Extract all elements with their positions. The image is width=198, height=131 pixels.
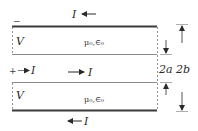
source-current-label: I	[30, 64, 36, 77]
center-current-label: I	[87, 66, 93, 79]
voltage-label-bottom: V	[16, 89, 25, 102]
plus-sign: +	[9, 66, 17, 76]
medium-label-top: μ₀,∈₀	[84, 38, 104, 47]
outer-separation-label: 2b	[175, 63, 190, 76]
transmission-line-diagram: I − V V μ₀,∈₀ μ₀,∈₀ + I I I 2a 2b	[0, 0, 198, 131]
minus-sign: −	[13, 16, 21, 26]
inner-separation-label: 2a	[158, 63, 173, 76]
bottom-current-label: I	[83, 115, 89, 128]
top-current-label: I	[71, 8, 77, 21]
medium-label-bottom: μ₀,∈₀	[84, 95, 104, 104]
voltage-label-top: V	[16, 35, 25, 48]
